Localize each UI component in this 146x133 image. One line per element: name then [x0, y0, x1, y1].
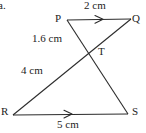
measure-label-tr: 4 cm	[21, 65, 43, 76]
vertex-label-p: P	[55, 13, 61, 24]
segment-ps	[67, 20, 128, 114]
vertex-label-q: Q	[132, 13, 140, 24]
segment-pq	[67, 19, 131, 20]
geometry-figure: a. P Q T R S 2 cm 1.6 cm 4 cm 5 cm	[0, 0, 146, 133]
vertex-label-t: T	[98, 46, 105, 57]
vertex-label-r: R	[1, 106, 8, 117]
measure-label-pq: 2 cm	[84, 0, 106, 11]
vertex-label-s: S	[132, 106, 138, 117]
measure-label-rs: 5 cm	[57, 119, 79, 130]
measure-label-pt: 1.6 cm	[32, 33, 62, 44]
